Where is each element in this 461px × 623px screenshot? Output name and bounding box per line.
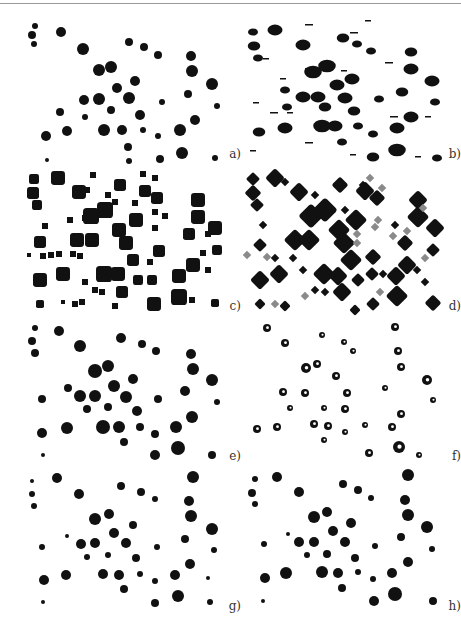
panel-c-image xyxy=(25,170,225,310)
panel-d-image xyxy=(245,170,445,310)
panel-label-a: a) xyxy=(229,148,241,160)
panel-c: c) xyxy=(25,170,225,310)
panel-d: d) xyxy=(245,170,445,310)
panel-e: e) xyxy=(25,320,225,460)
panel-label-f: f) xyxy=(452,450,461,462)
panel-b: b) xyxy=(245,18,445,158)
panel-label-d: d) xyxy=(449,300,461,312)
panel-a: a) xyxy=(25,18,225,158)
panel-h: h) xyxy=(245,470,445,610)
panel-g: g) xyxy=(25,470,225,610)
panel-b-image xyxy=(245,18,445,158)
panel-h-image xyxy=(245,470,445,610)
panel-label-e: e) xyxy=(229,450,241,462)
panel-f-image xyxy=(245,320,445,460)
panel-label-b: b) xyxy=(449,148,461,160)
panel-a-image xyxy=(25,18,225,158)
panel-label-h: h) xyxy=(449,600,461,612)
panel-label-g: g) xyxy=(229,600,241,612)
panel-e-image xyxy=(25,320,225,460)
panel-g-image xyxy=(25,470,225,610)
top-rule xyxy=(0,3,461,4)
panel-label-c: c) xyxy=(230,300,241,312)
panel-f: f) xyxy=(245,320,445,460)
